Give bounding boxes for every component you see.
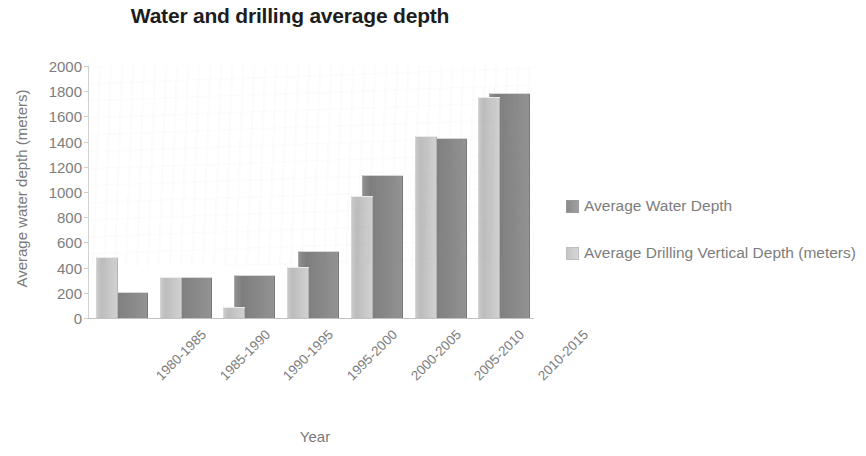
- bar-average-drilling-vertical-depth[interactable]: [160, 277, 182, 318]
- y-tick-label: 1000: [30, 185, 82, 200]
- y-tick-label: 1200: [30, 159, 82, 174]
- y-tick-label: 600: [30, 235, 82, 250]
- x-tick-label: 2005-2010: [471, 327, 527, 383]
- bar-group: [343, 66, 407, 318]
- plot-area: [88, 66, 534, 319]
- bars-layer: [88, 66, 534, 319]
- x-axis-tick-labels: 1980-19851985-19901990-19951995-20002000…: [88, 319, 534, 419]
- y-tick-mark: [84, 192, 88, 193]
- x-axis-title: Year: [90, 428, 540, 445]
- bar-group: [279, 66, 343, 318]
- y-tick-label: 400: [30, 260, 82, 275]
- y-axis-tick-labels: 0200400600800100012001400160018002000: [26, 66, 82, 319]
- chart-legend: Average Water DepthAverage Drilling Vert…: [566, 196, 866, 290]
- y-tick-mark: [84, 116, 88, 117]
- x-tick-label: 2000-2005: [408, 327, 464, 383]
- y-tick-label: 1800: [30, 84, 82, 99]
- y-tick-mark: [84, 91, 88, 92]
- y-tick-mark: [84, 167, 88, 168]
- y-tick-label: 200: [30, 285, 82, 300]
- y-tick-mark: [84, 142, 88, 143]
- bar-average-drilling-vertical-depth[interactable]: [415, 136, 437, 318]
- bar-average-drilling-vertical-depth[interactable]: [351, 196, 373, 318]
- x-tick-label: 1980-1985: [153, 327, 209, 383]
- bar-group: [470, 66, 534, 318]
- y-tick-mark: [84, 242, 88, 243]
- y-tick-mark: [84, 293, 88, 294]
- legend-label: Average Drilling Vertical Depth (meters): [584, 243, 856, 264]
- x-tick-label: 1995-2000: [344, 327, 400, 383]
- y-tick-label: 1600: [30, 109, 82, 124]
- y-tick-label: 2000: [30, 59, 82, 74]
- x-tick-label: 2010-2015: [535, 327, 591, 383]
- x-tick-label: 1990-1995: [280, 327, 336, 383]
- y-tick-label: 0: [30, 311, 82, 326]
- y-tick-label: 800: [30, 210, 82, 225]
- bar-group: [152, 66, 216, 318]
- chart-figure: Water and drilling average depth Average…: [0, 0, 866, 456]
- legend-entry[interactable]: Average Water Depth: [566, 196, 866, 217]
- bar-group: [88, 66, 152, 318]
- legend-entry[interactable]: Average Drilling Vertical Depth (meters): [566, 243, 866, 264]
- y-tick-mark: [84, 66, 88, 67]
- bar-group: [407, 66, 471, 318]
- bar-average-drilling-vertical-depth[interactable]: [287, 267, 309, 318]
- y-tick-mark: [84, 268, 88, 269]
- y-tick-label: 1400: [30, 134, 82, 149]
- bar-group: [215, 66, 279, 318]
- legend-swatch-icon: [566, 200, 579, 213]
- bar-average-drilling-vertical-depth[interactable]: [223, 307, 245, 318]
- legend-label: Average Water Depth: [584, 196, 732, 217]
- bar-average-drilling-vertical-depth[interactable]: [96, 257, 118, 318]
- y-tick-mark: [84, 217, 88, 218]
- x-tick-label: 1985-1990: [216, 327, 272, 383]
- chart-title: Water and drilling average depth: [0, 4, 580, 28]
- legend-swatch-icon: [566, 247, 579, 260]
- bar-average-drilling-vertical-depth[interactable]: [478, 97, 500, 319]
